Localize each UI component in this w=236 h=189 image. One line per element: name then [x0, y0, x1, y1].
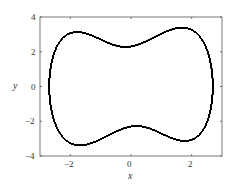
trajectory-line [49, 27, 213, 145]
x-tick-label-2: 2 [188, 160, 193, 169]
y-tick-label-4: 4 [31, 13, 36, 22]
x-axis-label: x [128, 170, 132, 181]
x-tick-label-neg2: −2 [64, 160, 74, 169]
axis-ticks [40, 17, 222, 156]
y-tick-label-neg2: −2 [25, 117, 35, 126]
x-tick-label-0: 0 [127, 160, 132, 169]
phase-portrait-chart [0, 0, 236, 189]
y-tick-label-neg4: −4 [25, 152, 35, 161]
y-tick-label-0: 0 [31, 83, 36, 92]
axes-box [40, 17, 222, 156]
y-axis-label: y [13, 80, 17, 91]
y-tick-label-2: 2 [31, 48, 36, 57]
